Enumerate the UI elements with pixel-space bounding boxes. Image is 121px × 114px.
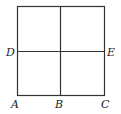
label-b: B (54, 98, 63, 111)
geometry-diagram: D E A B C (0, 0, 121, 114)
label-d: D (5, 46, 15, 59)
label-a: A (10, 98, 19, 111)
label-c: C (101, 98, 110, 111)
label-e: E (106, 46, 115, 59)
